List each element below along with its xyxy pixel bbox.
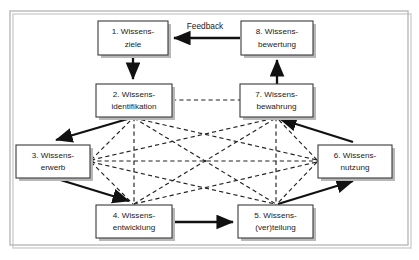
node-6-wissensnutzung[interactable]: 6. Wissens- nutzung [318,145,395,181]
dashed-link-4-6 [134,162,317,204]
solid-arrow-6-to-7 [280,119,353,142]
node-4-wissensentwicklung[interactable]: 4. Wissens- entwicklung [96,205,175,241]
solid-arrow-5-to-6 [278,181,353,204]
node-2-label-line2: identifikation [112,102,157,111]
node-5-label-line1: 5. Wissens- [254,211,297,220]
diagram-frame [10,11,411,248]
node-8-wissensbewertung[interactable]: 8. Wissens- bewertung [241,21,316,58]
node-4-label-line2: entwicklung [113,223,155,232]
node-5-wissensverteilung[interactable]: 5. Wissens- (ver)teilung [238,205,316,241]
knowledge-management-diagram: 1. Wissens- ziele 2. Wissens- identifika… [0,0,419,260]
node-7-label-line2: bewahrung [256,102,296,111]
node-7-label-line1: 7. Wissens- [255,90,298,99]
dashed-link-3-4 [91,162,133,204]
node-3-wissenserwerb[interactable]: 3. Wissens- erwerb [16,145,93,181]
node-3-label-line2: erwerb [41,163,66,172]
node-1-wissensziele[interactable]: 1. Wissens- ziele [98,21,171,58]
node-1-label-line2: ziele [125,40,142,49]
node-4-label-line1: 4. Wissens- [113,211,156,220]
diagram-canvas: 1. Wissens- ziele 2. Wissens- identifika… [0,0,419,260]
node-3-label-line1: 3. Wissens- [32,151,75,160]
node-6-label-line2: nutzung [341,163,370,172]
solid-arrow-2-to-3 [56,118,131,140]
node-6-label-line1: 6. Wissens- [334,151,377,160]
node-8-label-line2: bewertung [258,40,296,49]
solid-link-group [54,38,353,222]
node-8-label-line1: 8. Wissens- [256,27,299,36]
node-5-label-line2: (ver)teilung [255,223,296,232]
node-7-wissensbewahrung[interactable]: 7. Wissens- bewahrung [240,84,316,120]
feedback-edge-label: Feedback [187,21,224,31]
node-2-label-line1: 2. Wissens- [113,90,156,99]
node-1-label-line1: 1. Wissens- [112,27,155,36]
dashed-link-3-7 [91,118,275,160]
node-2-wissensidentifikation[interactable]: 2. Wissens- identifikation [96,84,175,120]
dashed-link-2-6 [134,118,317,160]
